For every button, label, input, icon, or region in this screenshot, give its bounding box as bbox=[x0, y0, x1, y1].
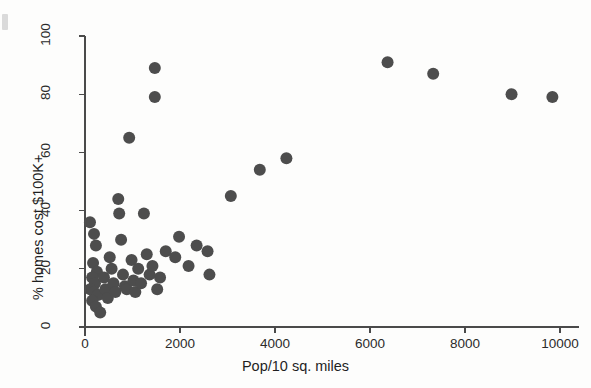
data-point bbox=[427, 68, 439, 80]
x-tick-label: 10000 bbox=[520, 336, 591, 351]
x-tick-label: 4000 bbox=[235, 336, 315, 351]
data-point bbox=[117, 269, 129, 281]
data-point bbox=[191, 240, 203, 252]
x-tick-label: 2000 bbox=[140, 336, 220, 351]
data-point bbox=[146, 260, 158, 272]
data-point bbox=[138, 208, 150, 220]
y-tick-label: 100 bbox=[38, 15, 53, 55]
y-tick-label: 80 bbox=[38, 73, 53, 113]
y-axis-title: % homes cost $100K+ bbox=[30, 155, 46, 301]
data-point bbox=[123, 132, 135, 144]
data-point bbox=[84, 216, 96, 228]
data-point bbox=[149, 91, 161, 103]
x-axis-title: Pop/10 sq. miles bbox=[0, 358, 591, 374]
scatter-plot-figure: 0200040006000800010000 020406080100 Pop/… bbox=[0, 0, 591, 388]
data-point bbox=[88, 228, 100, 240]
data-point bbox=[113, 208, 125, 220]
x-tick-label: 0 bbox=[45, 336, 125, 351]
data-point bbox=[104, 251, 116, 263]
data-point bbox=[254, 164, 266, 176]
data-points bbox=[84, 56, 558, 318]
data-point bbox=[135, 277, 147, 289]
data-point bbox=[154, 272, 166, 284]
x-tick-label: 8000 bbox=[425, 336, 505, 351]
data-point bbox=[149, 62, 161, 74]
data-point bbox=[203, 269, 215, 281]
data-point bbox=[202, 245, 214, 257]
data-point bbox=[115, 234, 127, 246]
data-point bbox=[106, 263, 118, 275]
plot-canvas bbox=[0, 0, 591, 388]
data-point bbox=[141, 248, 153, 260]
data-point bbox=[94, 306, 106, 318]
y-tick-label: 0 bbox=[38, 306, 53, 346]
data-point bbox=[382, 56, 394, 68]
data-point bbox=[112, 193, 124, 205]
data-point bbox=[90, 240, 102, 252]
data-point bbox=[506, 88, 518, 100]
data-point bbox=[280, 152, 292, 164]
data-point bbox=[225, 190, 237, 202]
data-point bbox=[151, 283, 163, 295]
data-point bbox=[169, 251, 181, 263]
data-point bbox=[546, 91, 558, 103]
data-point bbox=[132, 263, 144, 275]
data-point bbox=[173, 231, 185, 243]
x-tick-label: 6000 bbox=[330, 336, 410, 351]
data-point bbox=[183, 260, 195, 272]
